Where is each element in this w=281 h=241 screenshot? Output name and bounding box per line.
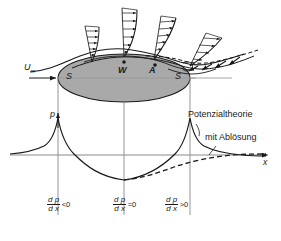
diagram-canvas xyxy=(0,0,281,241)
label-stagnation-front: S xyxy=(66,72,72,81)
gradient-label-favorable: d p d x <0 xyxy=(47,196,70,214)
pressure-curve-potential-theory xyxy=(10,118,266,180)
velocity-profile-3 xyxy=(154,16,176,60)
label-potenzialtheorie: Potenzialtheorie xyxy=(188,110,253,119)
pressure-curve-with-separation xyxy=(124,154,266,180)
label-pressure-axis: p xyxy=(50,110,55,119)
label-point-w: W xyxy=(118,66,127,75)
gradient-favorable-numerator: d p xyxy=(47,196,60,204)
gradient-favorable-denominator: d x xyxy=(47,204,60,213)
label-x-axis: x xyxy=(263,158,267,167)
gradient-adverse-denominator: d x xyxy=(165,204,178,213)
gradient-zero-relation: =0 xyxy=(126,201,136,209)
freestream-subscript: ∞ xyxy=(31,67,36,74)
label-stagnation-rear: S xyxy=(175,72,181,81)
gradient-label-adverse: d p d x >0 xyxy=(165,196,188,214)
gradient-zero-denominator: d x xyxy=(113,204,126,213)
label-freestream-velocity: U∞ xyxy=(24,63,35,74)
fluid-dynamics-figure: U∞ S S W A p x Potenzialtheorie mit Ablö… xyxy=(0,0,281,241)
label-mit-abloesung: mit Ablösung xyxy=(205,133,257,142)
gradient-label-zero: d p d x =0 xyxy=(113,196,136,214)
gradient-adverse-numerator: d p xyxy=(165,196,178,204)
gradient-adverse-relation: >0 xyxy=(178,201,188,209)
gradient-zero-numerator: d p xyxy=(113,196,126,204)
gradient-favorable-relation: <0 xyxy=(60,201,70,209)
label-point-a: A xyxy=(149,66,156,75)
leader-potenzialtheorie xyxy=(196,124,199,136)
